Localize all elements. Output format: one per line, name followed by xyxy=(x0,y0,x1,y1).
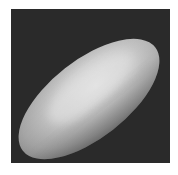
ellipsoid-render xyxy=(11,9,170,163)
image-frame: Grayscale rendering of a smooth ellipsoi… xyxy=(11,9,170,163)
